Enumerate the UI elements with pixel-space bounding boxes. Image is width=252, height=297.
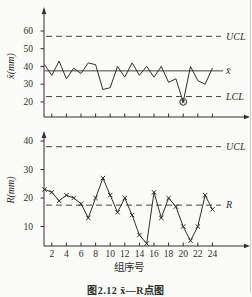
- r-chart-point-marker: [72, 196, 76, 200]
- r-chart-ucl-label: UCL: [226, 141, 246, 152]
- x-tick-label: 22: [193, 249, 203, 259]
- x-axis-title: 组序号: [44, 259, 214, 274]
- r-chart-y-tick-label: 20: [24, 193, 34, 203]
- xbar-chart-y-tick-label: 50: [24, 44, 34, 54]
- r-chart-point-marker: [137, 233, 141, 237]
- x-tick-label: 24: [208, 249, 218, 259]
- r-chart-point-marker: [166, 196, 170, 200]
- xbar-chart-y-tick-label: 60: [24, 26, 34, 36]
- xbar-chart-y-tick-label: 30: [24, 79, 34, 89]
- r-chart-point-marker: [181, 224, 185, 228]
- x-tick-label: 2: [49, 249, 54, 259]
- r-chart-point-marker: [57, 199, 61, 203]
- x-tick-label: 10: [105, 249, 115, 259]
- r-chart-point-marker: [64, 193, 68, 197]
- x-tick-label: 14: [135, 249, 145, 259]
- xbar-y-axis-label: x̄(mm): [4, 34, 18, 98]
- r-chart-point-marker: [115, 210, 119, 214]
- r-chart-point-marker: [108, 193, 112, 197]
- r-chart-y-tick-label: 10: [24, 222, 34, 232]
- r-chart-point-marker: [50, 190, 54, 194]
- r-chart-point-marker: [93, 196, 97, 200]
- r-chart-r-label: R: [225, 199, 232, 210]
- figure-caption: 图2.12 x̄—R点图: [0, 282, 252, 297]
- xbar-chart-ucl-label: UCL: [226, 31, 246, 42]
- x-tick-label: 12: [120, 249, 130, 259]
- r-chart-point-marker: [86, 216, 90, 220]
- r-chart-y-tick-label: 40: [24, 136, 34, 146]
- xbar-chart-x̄-label: x̄: [225, 65, 231, 76]
- r-chart-point-marker: [123, 196, 127, 200]
- x-tick-label: 8: [93, 249, 98, 259]
- scan-page-edge: [250, 0, 251, 293]
- r-chart-point-marker: [210, 207, 214, 211]
- xbar-chart-y-axis-arrow-icon: [42, 7, 47, 14]
- xbar-chart-y-tick-label: 20: [24, 97, 34, 107]
- xbar-chart-y-tick-label: 40: [24, 62, 34, 72]
- r-chart-point-marker: [101, 176, 105, 180]
- r-chart-series-line: [45, 178, 213, 244]
- x-tick-label: 16: [149, 249, 159, 259]
- x-tick-label: 20: [178, 249, 188, 259]
- x-tick-label: 18: [164, 249, 174, 259]
- r-chart-y-tick-label: 30: [24, 165, 34, 175]
- r-chart-point-marker: [130, 213, 134, 217]
- x-tick-label: 4: [64, 249, 69, 259]
- r-chart-point-marker: [174, 204, 178, 208]
- xbar-chart-series-line: [45, 61, 213, 102]
- r-y-axis-label: R(mm): [4, 158, 18, 222]
- xbar-chart-lcl-label: LCL: [225, 91, 244, 102]
- x-tick-label: 6: [79, 249, 84, 259]
- r-chart-y-axis-arrow-icon: [42, 131, 47, 138]
- r-chart-point-marker: [188, 239, 192, 243]
